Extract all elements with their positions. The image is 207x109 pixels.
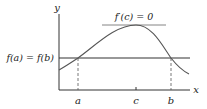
y-axis-label: y — [53, 2, 60, 13]
function-curve — [59, 25, 189, 74]
x-axis-label: x — [193, 84, 199, 95]
tick-label-b: b — [168, 95, 174, 106]
tangent-label: f′(c) = 0 — [114, 11, 153, 22]
tick-label-a: a — [75, 95, 81, 106]
tick-label-c: c — [133, 95, 139, 106]
level-line-label: f(a) = f(b) — [5, 52, 54, 63]
rolle-theorem-diagram: y x f(a) = f(b) f′(c) = 0 a c b — [0, 0, 207, 109]
